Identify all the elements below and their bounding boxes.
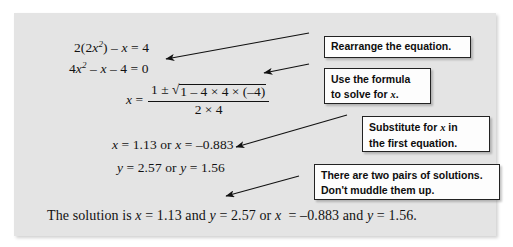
solution-statement: The solution is x = 1.13 and y = 2.57 or… [47, 208, 417, 224]
callout-two-pairs: There are two pairs of solutions. Don't … [314, 164, 500, 200]
formula-fraction: 1 ± √1 – 4 × 4 × (–4) 2 × 4 [148, 83, 269, 117]
worked-example-panel: 2(2x2) – x = 4 4x2 – x – 4 = 0 x = 1 ± √… [14, 13, 496, 236]
callout-substitute: Substitute for x in the first equation. [362, 116, 490, 152]
callout-two-pairs-line-2: Don't muddle them up. [321, 183, 493, 198]
callout-substitute-line-2: the first equation. [369, 136, 483, 151]
callout-use-formula-line-1: Use the formula [331, 72, 424, 87]
square-root-icon: √1 – 4 × 4 × (–4) [172, 83, 266, 100]
formula-numerator: 1 ± √1 – 4 × 4 × (–4) [148, 83, 269, 101]
equation-x-values: x = 1.13 or x = –0.883 [112, 137, 234, 153]
equation-quadratic-formula: x = 1 ± √1 – 4 × 4 × (–4) 2 × 4 [126, 83, 269, 117]
equation-y-values: y = 2.57 or y = 1.56 [117, 160, 225, 176]
callout-rearrange-line-1: Rearrange the equation. [331, 39, 451, 54]
equation-line-1: 2(2x2) – x = 4 [74, 40, 149, 56]
callout-two-pairs-line-1: There are two pairs of solutions. [321, 168, 493, 183]
callout-use-formula: Use the formula to solve for x. [324, 68, 431, 104]
callout-rearrange: Rearrange the equation. [324, 36, 471, 58]
equation-line-2: 4x2 – x – 4 = 0 [69, 61, 149, 77]
figure-canvas: 2(2x2) – x = 4 4x2 – x – 4 = 0 x = 1 ± √… [0, 0, 513, 247]
callout-substitute-line-1: Substitute for x in [369, 120, 483, 136]
formula-denominator: 2 × 4 [192, 102, 226, 118]
callout-use-formula-line-2: to solve for x. [331, 87, 424, 103]
